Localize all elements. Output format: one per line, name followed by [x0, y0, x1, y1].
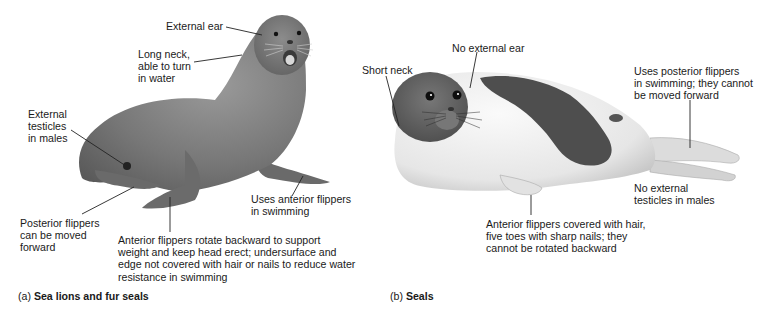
label-long-neck: Long neck, able to turn in water: [138, 48, 191, 85]
caption-panel-b: (b) Seals: [390, 290, 434, 302]
label-uses-anterior-flippers: Uses anterior flippers in swimming: [251, 193, 351, 217]
caption-panel-a: (a) Sea lions and fur seals: [18, 290, 149, 302]
caption-b-prefix: (b): [390, 290, 403, 302]
label-external-ear: External ear: [166, 20, 223, 32]
caption-a-prefix: (a): [18, 290, 31, 302]
label-external-testicles: External testicles in males: [28, 108, 67, 145]
label-posterior-flippers: Posterior flippers can be moved forward: [20, 217, 99, 254]
label-no-external-ear: No external ear: [452, 42, 524, 54]
label-uses-posterior-flippers: Uses posterior flippers in swimming; the…: [634, 65, 753, 102]
label-anterior-flippers-hair: Anterior flippers covered with hair, fiv…: [486, 218, 646, 255]
caption-b-title: Seals: [406, 290, 434, 302]
label-no-external-testicles: No external testicles in males: [634, 182, 715, 206]
sea-lion-illustration: [79, 15, 330, 209]
label-short-neck: Short neck: [362, 64, 413, 76]
caption-a-title: Sea lions and fur seals: [34, 290, 149, 302]
illustration-canvas: [0, 0, 770, 312]
label-anterior-flippers-rotate: Anterior flippers rotate backward to sup…: [118, 234, 355, 283]
